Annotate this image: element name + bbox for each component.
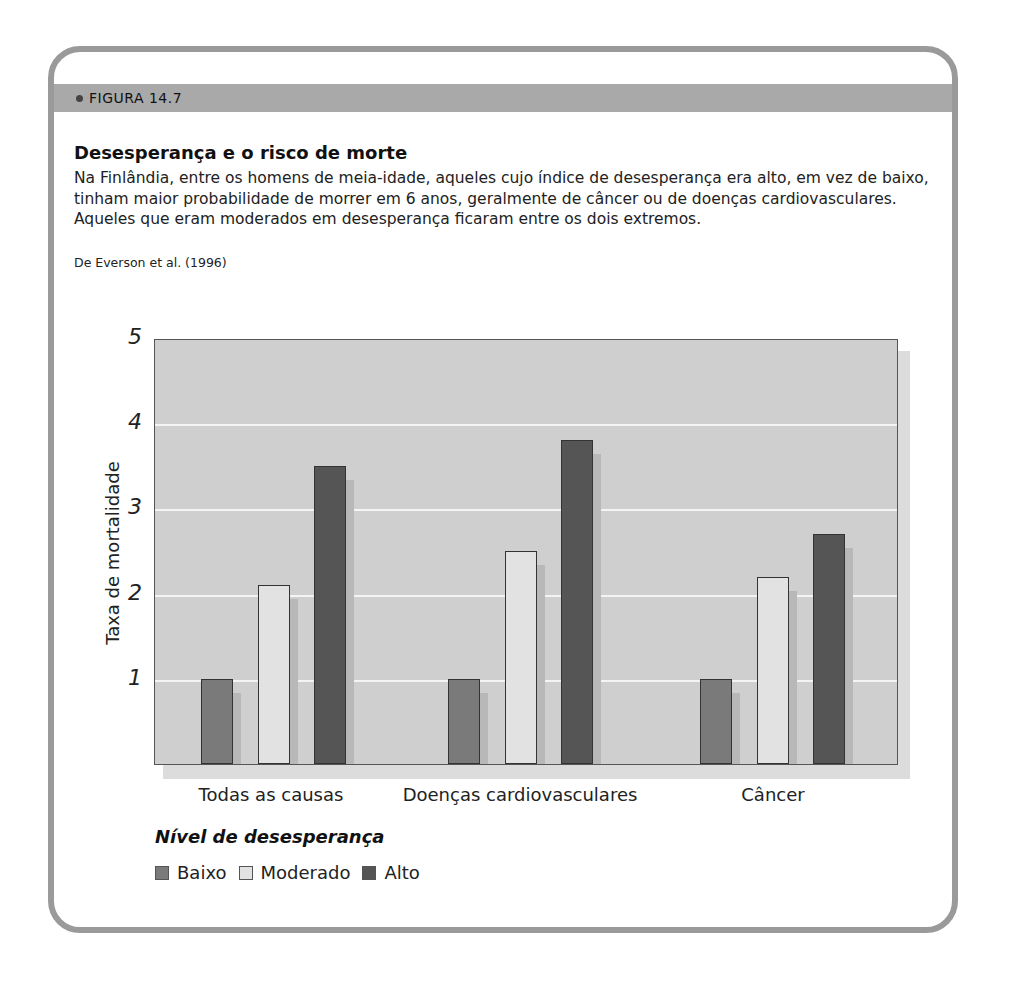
legend-label: Alto [384, 862, 419, 883]
y-tick-label: 3 [112, 494, 142, 519]
legend-item-baixo: Baixo [155, 862, 227, 883]
y-tick-label: 2 [112, 580, 142, 605]
legend-swatch [239, 866, 253, 880]
bar-baixo [700, 679, 732, 764]
x-category-label: Câncer [741, 784, 804, 805]
legend-item-moderado: Moderado [239, 862, 351, 883]
figure-caption: Na Finlândia, entre os homens de meia-id… [74, 168, 934, 230]
gridline [155, 424, 897, 426]
legend-label: Baixo [177, 862, 227, 883]
bar-moderado [505, 551, 537, 764]
figure-label: FIGURA 14.7 [89, 90, 182, 106]
figure-source: De Everson et al. (1996) [74, 255, 227, 270]
y-tick-label: 5 [112, 324, 142, 349]
figure-header-band: FIGURA 14.7 [54, 84, 952, 112]
plot-area [154, 339, 898, 765]
bar-baixo [448, 679, 480, 764]
legend-swatch [155, 866, 169, 880]
x-category-label: Todas as causas [199, 784, 344, 805]
bar-alto [813, 534, 845, 764]
legend: BaixoModeradoAlto [155, 862, 432, 883]
bullet-icon [76, 95, 83, 102]
bar-moderado [757, 577, 789, 764]
y-tick-label: 1 [112, 665, 142, 690]
bar-alto [314, 466, 346, 764]
legend-label: Moderado [261, 862, 351, 883]
legend-title: Nível de desesperança [155, 826, 384, 847]
y-tick-label: 4 [112, 409, 142, 434]
figure-title: Desesperança e o risco de morte [74, 142, 407, 163]
legend-item-alto: Alto [362, 862, 419, 883]
legend-swatch [362, 866, 376, 880]
bar-alto [561, 440, 593, 764]
gridline [155, 509, 897, 511]
bar-baixo [201, 679, 233, 764]
bar-moderado [258, 585, 290, 764]
x-category-label: Doenças cardiovasculares [403, 784, 638, 805]
y-axis-label: Taxa de mortalidade [102, 461, 123, 645]
